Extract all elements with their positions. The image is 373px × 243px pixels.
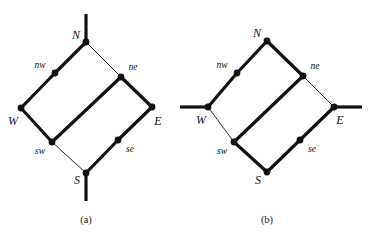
edge-N-ne xyxy=(267,41,303,76)
figure-root: NnwneWEswseS(a)NnwneWEswseS(b) xyxy=(0,0,373,243)
node-W[interactable] xyxy=(205,104,212,111)
edge-W-sw xyxy=(208,107,234,142)
node-E[interactable] xyxy=(331,104,338,111)
edge-N-nw xyxy=(237,41,267,73)
node-N[interactable] xyxy=(264,38,271,45)
node-sw[interactable] xyxy=(231,139,238,146)
edge-E-se xyxy=(300,107,334,140)
node-ne[interactable] xyxy=(300,73,307,80)
panel-caption-b: (b) xyxy=(261,214,273,225)
edge-ne-E xyxy=(303,76,334,107)
edge-nw-W xyxy=(208,73,237,107)
edge-se-S xyxy=(267,140,300,172)
diagram-panel-b: NnwneWEswseS(b) xyxy=(0,0,373,243)
node-S[interactable] xyxy=(264,169,271,176)
graph-canvas-b xyxy=(0,0,373,243)
node-se[interactable] xyxy=(297,137,304,144)
edge-ne-sw xyxy=(234,76,303,142)
edge-sw-S xyxy=(234,142,267,172)
node-nw[interactable] xyxy=(234,70,241,77)
